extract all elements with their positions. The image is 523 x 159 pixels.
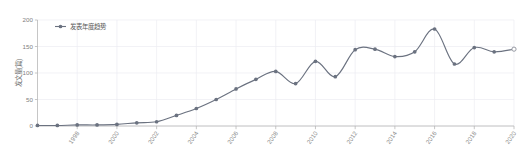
chart-canvas: 050100150200 199820002002200420062008201… xyxy=(0,0,523,159)
y-axis-title-label: 发文量(篇) xyxy=(14,59,23,87)
y-tick-label: 50 xyxy=(26,96,33,103)
data-point-marker[interactable] xyxy=(393,55,397,59)
y-axis-title: 发文量(篇) xyxy=(14,59,23,87)
data-point-marker[interactable] xyxy=(294,82,298,86)
data-point-marker[interactable] xyxy=(373,47,377,51)
data-point-marker[interactable] xyxy=(115,123,119,127)
data-point-marker[interactable] xyxy=(56,124,60,128)
legend-item-label[interactable]: 发表年度趋势 xyxy=(70,22,107,31)
data-point-marker[interactable] xyxy=(175,114,179,118)
y-tick-label: 150 xyxy=(23,43,34,50)
data-point-marker[interactable] xyxy=(453,62,457,66)
data-point-marker[interactable] xyxy=(274,70,278,74)
data-point-marker[interactable] xyxy=(413,50,417,54)
data-point-marker[interactable] xyxy=(95,123,99,127)
legend-marker-dot xyxy=(59,25,63,29)
data-point-marker[interactable] xyxy=(333,75,337,79)
y-tick-label: 100 xyxy=(23,69,34,76)
data-point-marker[interactable] xyxy=(155,120,159,124)
data-point-marker[interactable] xyxy=(214,98,218,102)
data-point-marker[interactable] xyxy=(194,107,198,111)
data-point-marker[interactable] xyxy=(353,48,357,52)
data-point-marker[interactable] xyxy=(75,123,79,127)
y-tick-label: 0 xyxy=(29,122,33,129)
y-tick-label: 200 xyxy=(23,16,34,23)
data-point-marker[interactable] xyxy=(254,78,258,82)
data-point-marker[interactable] xyxy=(472,46,476,50)
data-point-marker[interactable] xyxy=(135,121,139,125)
data-point-marker[interactable] xyxy=(492,50,496,54)
data-point-marker[interactable] xyxy=(433,27,437,31)
data-point-marker[interactable] xyxy=(512,47,516,51)
data-point-marker[interactable] xyxy=(36,124,40,128)
data-point-marker[interactable] xyxy=(314,59,318,63)
line-chart: 050100150200 199820002002200420062008201… xyxy=(0,0,523,159)
data-point-marker[interactable] xyxy=(234,87,238,91)
